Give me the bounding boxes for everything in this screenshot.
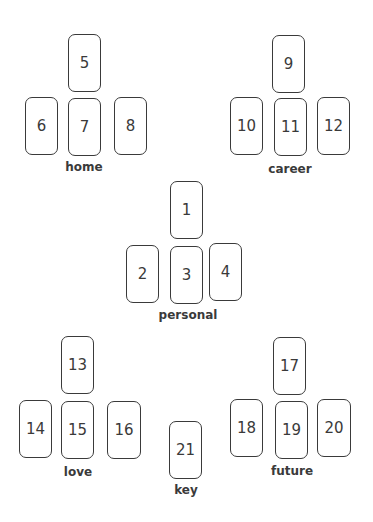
card-20: 20 [317,399,351,457]
group-label-key: key [174,483,198,497]
group-label-personal: personal [159,308,218,322]
card-13: 13 [61,336,94,394]
group-label-career: career [268,162,311,176]
card-10: 10 [230,97,263,155]
card-11: 11 [274,98,307,156]
card-18: 18 [230,399,263,457]
card-8: 8 [114,97,147,155]
card-9: 9 [272,35,305,93]
card-3: 3 [170,246,203,304]
group-label-home: home [65,160,102,174]
card-15: 15 [61,401,94,459]
card-7: 7 [68,98,101,156]
group-label-future: future [271,464,313,478]
card-14: 14 [19,400,52,458]
card-17: 17 [273,337,306,395]
card-16: 16 [107,401,141,459]
card-1: 1 [170,181,203,239]
card-2: 2 [126,245,159,303]
card-21: 21 [169,421,202,479]
card-19: 19 [275,401,308,459]
card-5: 5 [68,34,101,92]
card-12: 12 [317,97,350,155]
card-6: 6 [25,97,58,155]
group-label-love: love [64,465,92,479]
card-4: 4 [209,243,242,301]
